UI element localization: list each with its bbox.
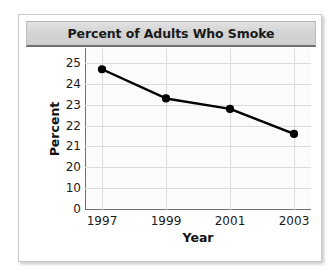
y-axis-tick-label: 21 (66, 139, 81, 153)
y-axis-tick-label: 23 (66, 98, 81, 112)
figure-card: Percent of Adults Who Smoke 010202122232… (18, 14, 322, 262)
x-axis-tick-label: 2001 (215, 214, 246, 228)
x-axis-tick-labels: 1997199920012003 (85, 214, 311, 230)
series-line (102, 69, 294, 134)
series-markers (98, 65, 298, 138)
data-point (226, 105, 234, 113)
x-axis-tick-label: 2003 (279, 214, 310, 228)
y-axis-tick-label: 24 (66, 77, 81, 91)
data-series-layer (85, 48, 311, 210)
y-axis-tick-label: 22 (66, 119, 81, 133)
y-axis-title: Percent (47, 102, 62, 157)
y-axis-tick-label: 0 (73, 202, 81, 216)
x-axis-tick-label: 1999 (151, 214, 182, 228)
data-point (162, 94, 170, 102)
chart-title: Percent of Adults Who Smoke (68, 26, 275, 41)
x-axis-title: Year (85, 230, 311, 245)
y-axis-tick-label: 20 (66, 160, 81, 174)
plot-area (85, 48, 311, 210)
data-point (290, 130, 298, 138)
chart-title-banner: Percent of Adults Who Smoke (26, 21, 316, 47)
y-axis-tick-label: 10 (66, 181, 81, 195)
data-point (98, 65, 106, 73)
x-axis-tick-label: 1997 (87, 214, 118, 228)
y-axis-tick-label: 25 (66, 56, 81, 70)
